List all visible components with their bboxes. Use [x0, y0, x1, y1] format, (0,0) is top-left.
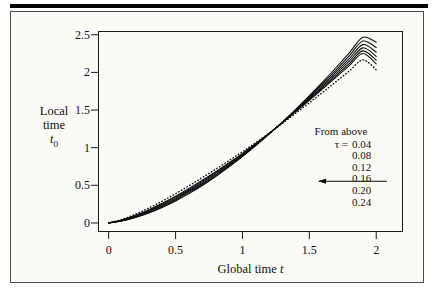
figure-container: 00.511.522.5 00.511.52 Local time t0 Glo… [0, 0, 434, 300]
y-axis-title: Local time t0 [18, 104, 90, 151]
legend-value: 0.24 [352, 197, 382, 209]
y-axis-title-variable: t0 [18, 132, 90, 151]
legend-symbol [314, 197, 352, 209]
legend-entry: 0.24 [300, 197, 382, 209]
y-axis-title-line2: time [18, 118, 90, 132]
x-tick-label: 1.5 [302, 243, 317, 258]
x-tick-label: 0 [106, 243, 112, 258]
y-axis-title-line1: Local [18, 104, 90, 118]
x-var-symbol: t [280, 262, 283, 276]
x-axis-title-text: Global time [218, 262, 277, 276]
legend-rows: τ =0.040.080.120.160.200.24 [300, 139, 382, 209]
y-tick-label: 2 [52, 65, 90, 80]
legend: From above τ =0.040.080.120.160.200.24 [300, 126, 382, 208]
x-tick-label: 1 [239, 243, 245, 258]
legend-symbol [314, 173, 352, 185]
legend-entry: 0.20 [300, 185, 382, 197]
y-tick-label: 2.5 [52, 27, 90, 42]
legend-title: From above [300, 126, 382, 138]
legend-symbol [314, 150, 352, 162]
legend-symbol: τ = [314, 139, 352, 151]
top-rule-divider [10, 4, 428, 8]
x-axis-title: Global time t [98, 262, 403, 277]
x-tick-label: 0.5 [168, 243, 183, 258]
y-var-subscript: 0 [53, 139, 58, 149]
legend-symbol [314, 162, 352, 174]
y-tick-label: 0.5 [52, 178, 90, 193]
legend-value: 0.20 [352, 185, 382, 197]
y-tick-label: 0 [52, 215, 90, 230]
legend-symbol [314, 185, 352, 197]
x-tick-label: 2 [373, 243, 379, 258]
